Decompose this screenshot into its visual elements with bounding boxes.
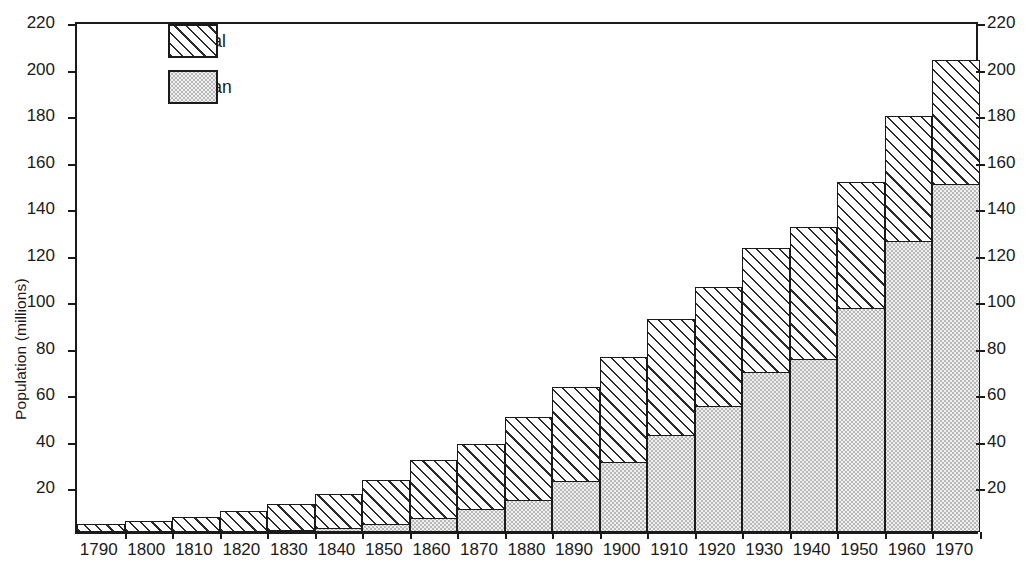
y-tick-label-right-80: 80 xyxy=(987,340,1006,357)
y-tick-label-right-160: 160 xyxy=(987,154,1015,171)
bar-segment-rural-1890 xyxy=(552,387,600,482)
bar-1870 xyxy=(457,442,505,532)
bar-segment-urban-1900 xyxy=(600,462,648,532)
bar-segment-rural-1830 xyxy=(267,504,315,531)
bar-segment-rural-1810 xyxy=(172,517,220,533)
y-tick-right-100 xyxy=(976,303,985,305)
bar-segment-urban-1880 xyxy=(505,499,553,532)
bar-segment-urban-1960 xyxy=(885,240,933,532)
bar-1860 xyxy=(410,459,458,532)
x-tick-1910 xyxy=(695,532,697,539)
y-tick-left-140 xyxy=(68,210,77,212)
x-tick-1950 xyxy=(885,532,887,539)
y-tick-label-right-140: 140 xyxy=(987,200,1015,217)
y-tick-right-60 xyxy=(976,396,985,398)
y-tick-right-200 xyxy=(976,71,985,73)
y-tick-label-left-120: 120 xyxy=(27,247,55,264)
bar-1880 xyxy=(505,415,553,532)
x-tick-1870 xyxy=(505,532,507,539)
y-tick-left-100 xyxy=(68,303,77,305)
y-tick-right-140 xyxy=(976,210,985,212)
x-tick-1800 xyxy=(172,532,174,539)
bar-1930 xyxy=(742,246,790,532)
bar-1850 xyxy=(362,478,410,532)
bar-1790 xyxy=(77,523,125,532)
bar-segment-rural-1970 xyxy=(932,60,980,185)
bar-segment-rural-1800 xyxy=(125,521,173,532)
y-tick-label-left-80: 80 xyxy=(36,340,55,357)
x-tick-1930 xyxy=(790,532,792,539)
bar-segment-rural-1950 xyxy=(837,182,885,309)
y-tick-label-left-220: 220 xyxy=(27,14,55,31)
x-tick-1830 xyxy=(315,532,317,539)
y-tick-left-60 xyxy=(68,396,77,398)
x-tick-1900 xyxy=(647,532,649,539)
x-tick-1840 xyxy=(362,532,364,539)
bar-segment-urban-1920 xyxy=(695,406,743,532)
x-tick-1880 xyxy=(552,532,554,539)
bar-segment-rural-1940 xyxy=(790,227,838,360)
y-tick-label-right-180: 180 xyxy=(987,107,1015,124)
bar-1910 xyxy=(647,318,695,532)
y-tick-right-160 xyxy=(976,164,985,166)
bar-segment-rural-1860 xyxy=(410,460,458,519)
x-tick-1850 xyxy=(410,532,412,539)
legend-swatch-urban xyxy=(168,70,218,104)
y-tick-label-left-100: 100 xyxy=(27,293,55,310)
y-tick-right-20 xyxy=(976,489,985,491)
y-tick-left-40 xyxy=(68,443,77,445)
y-tick-right-180 xyxy=(976,117,985,119)
bar-1960 xyxy=(885,115,933,532)
y-tick-label-left-20: 20 xyxy=(36,479,55,496)
bar-1830 xyxy=(267,502,315,532)
y-tick-left-220 xyxy=(68,24,77,26)
legend: Rural Urban xyxy=(168,24,232,116)
legend-item-rural: Rural xyxy=(168,24,232,58)
bar-1900 xyxy=(600,355,648,532)
bar-segment-rural-1920 xyxy=(695,287,743,407)
x-tick-1920 xyxy=(742,532,744,539)
y-tick-label-right-20: 20 xyxy=(987,479,1006,496)
legend-item-urban: Urban xyxy=(168,70,232,104)
y-tick-left-120 xyxy=(68,257,77,259)
y-tick-left-80 xyxy=(68,350,77,352)
y-tick-label-right-40: 40 xyxy=(987,433,1006,450)
bar-segment-urban-1950 xyxy=(837,307,885,532)
legend-swatch-rural xyxy=(168,24,218,58)
x-tick-1790 xyxy=(125,532,127,539)
bar-segment-urban-1890 xyxy=(552,481,600,532)
y-tick-left-160 xyxy=(68,164,77,166)
bar-1820 xyxy=(220,510,268,532)
bar-segment-rural-1910 xyxy=(647,319,695,435)
y-tick-label-right-220: 220 xyxy=(987,14,1015,31)
x-tick-1960 xyxy=(932,532,934,539)
bar-segment-rural-1900 xyxy=(600,357,648,464)
y-tick-left-200 xyxy=(68,71,77,73)
y-tick-right-80 xyxy=(976,350,985,352)
y-tick-right-220 xyxy=(976,24,985,26)
bar-segment-urban-1860 xyxy=(410,518,458,532)
y-tick-label-right-60: 60 xyxy=(987,386,1006,403)
y-tick-label-left-160: 160 xyxy=(27,154,55,171)
y-tick-right-120 xyxy=(976,257,985,259)
y-tick-label-right-100: 100 xyxy=(987,293,1015,310)
y-tick-label-left-180: 180 xyxy=(27,107,55,124)
y-tick-label-right-200: 200 xyxy=(987,61,1015,78)
bar-segment-rural-1820 xyxy=(220,511,268,532)
y-tick-label-right-120: 120 xyxy=(987,247,1015,264)
bar-1800 xyxy=(125,520,173,532)
x-tick-1940 xyxy=(837,532,839,539)
y-tick-left-20 xyxy=(68,489,77,491)
y-tick-label-left-60: 60 xyxy=(36,386,55,403)
y-tick-left-180 xyxy=(68,117,77,119)
bar-1970 xyxy=(932,58,980,532)
bar-1950 xyxy=(837,181,885,532)
bar-segment-urban-1940 xyxy=(790,359,838,532)
chart-figure: Population (millions) Rural Urban 179018… xyxy=(0,0,1036,569)
y-tick-label-left-40: 40 xyxy=(36,433,55,450)
bar-segment-rural-1840 xyxy=(315,494,363,529)
y-tick-label-left-200: 200 xyxy=(27,61,55,78)
bar-1810 xyxy=(172,515,220,532)
bar-segment-rural-1790 xyxy=(77,524,125,533)
bar-segment-rural-1880 xyxy=(505,417,553,501)
